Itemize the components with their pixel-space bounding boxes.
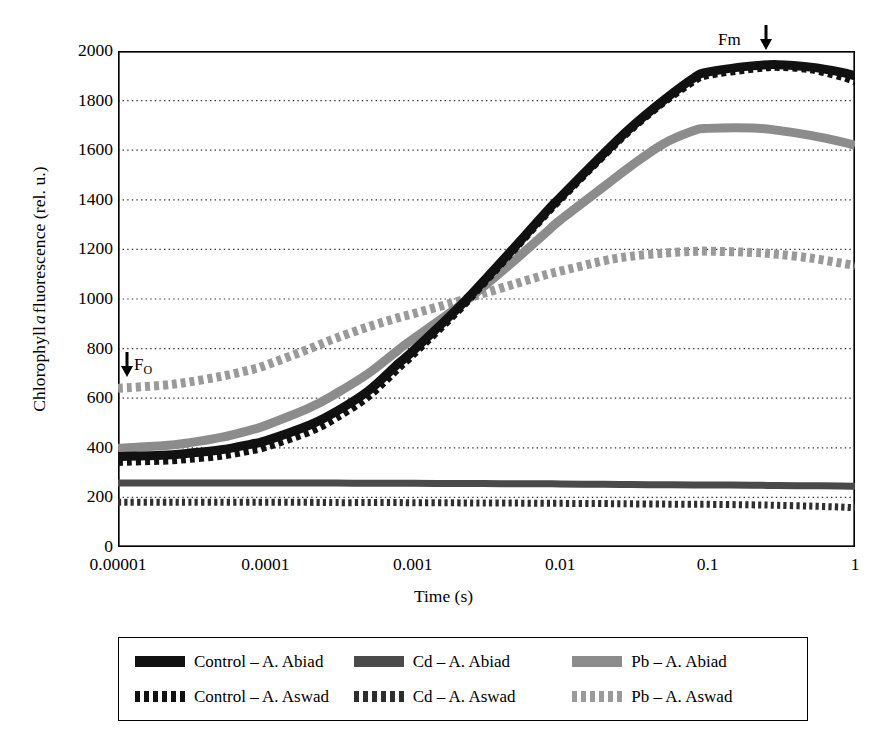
legend-label: Cd – A. Abiad bbox=[413, 652, 510, 672]
x-axis-label: Time (s) bbox=[0, 586, 887, 607]
legend-label: Pb – A. Aswad bbox=[631, 687, 732, 707]
y-tick-label: 1600 bbox=[57, 141, 113, 159]
legend-swatch bbox=[135, 691, 185, 702]
legend-item[interactable]: Control – A. Aswad bbox=[135, 679, 354, 714]
legend-item[interactable]: Cd – A. Abiad bbox=[354, 644, 573, 679]
y-tick-label: 800 bbox=[57, 340, 113, 358]
legend-item[interactable]: Pb – A. Aswad bbox=[572, 679, 791, 714]
legend-label: Control – A. Aswad bbox=[194, 687, 329, 707]
legend-label: Cd – A. Aswad bbox=[413, 687, 516, 707]
fo-annotation: FO bbox=[134, 356, 152, 376]
legend-label: Control – A. Abiad bbox=[194, 652, 323, 672]
y-axis-label-post: fluorescence (rel. u.) bbox=[29, 166, 50, 313]
legend-swatch bbox=[135, 656, 185, 667]
x-tick-label: 0.1 bbox=[697, 556, 719, 574]
plot-svg bbox=[118, 51, 855, 547]
legend-swatch bbox=[572, 656, 622, 667]
fm-label: Fm bbox=[718, 30, 741, 49]
legend-item[interactable]: Cd – A. Aswad bbox=[354, 679, 573, 714]
y-axis-label-pre: Chlorophyll bbox=[29, 326, 50, 412]
series-line bbox=[118, 128, 855, 449]
legend-grid: Control – A. AbiadCd – A. AbiadPb – A. A… bbox=[119, 638, 807, 720]
series-line bbox=[118, 502, 855, 507]
y-tick-label: 1200 bbox=[57, 241, 113, 259]
x-tick-label: 0.00001 bbox=[90, 556, 147, 574]
x-axis-ticks: 0.000010.00010.0010.010.11 bbox=[0, 556, 887, 582]
legend-item[interactable]: Pb – A. Abiad bbox=[572, 644, 791, 679]
x-tick-label: 1 bbox=[851, 556, 860, 574]
legend-item[interactable]: Control – A. Abiad bbox=[135, 644, 354, 679]
legend-label: Pb – A. Abiad bbox=[631, 652, 726, 672]
legend-swatch bbox=[354, 691, 404, 702]
x-tick-label: 0.001 bbox=[393, 556, 432, 574]
plot-area bbox=[118, 51, 855, 547]
y-axis-ticks: 0200400600800100012001400160018002000 bbox=[55, 0, 113, 743]
chart-figure: Chlorophyll a fluorescence (rel. u.) 020… bbox=[0, 0, 887, 743]
x-tick-label: 0.01 bbox=[545, 556, 576, 574]
y-tick-label: 400 bbox=[57, 439, 113, 457]
legend-swatch bbox=[354, 656, 404, 667]
fm-annotation: Fm bbox=[718, 31, 741, 48]
y-tick-label: 200 bbox=[57, 489, 113, 507]
y-axis-label: Chlorophyll a fluorescence (rel. u.) bbox=[26, 54, 52, 524]
y-tick-label: 2000 bbox=[57, 42, 113, 60]
x-tick-label: 0.0001 bbox=[241, 556, 289, 574]
legend-box: Control – A. AbiadCd – A. AbiadPb – A. A… bbox=[118, 637, 808, 721]
fo-subscript: O bbox=[143, 363, 152, 377]
fm-arrow-icon bbox=[756, 25, 776, 51]
y-tick-label: 1800 bbox=[57, 92, 113, 110]
y-tick-label: 1400 bbox=[57, 191, 113, 209]
y-axis-label-italic: a bbox=[29, 313, 50, 326]
y-tick-label: 1000 bbox=[57, 290, 113, 308]
series-line bbox=[118, 483, 855, 486]
legend-swatch bbox=[572, 691, 622, 702]
y-tick-label: 600 bbox=[57, 389, 113, 407]
